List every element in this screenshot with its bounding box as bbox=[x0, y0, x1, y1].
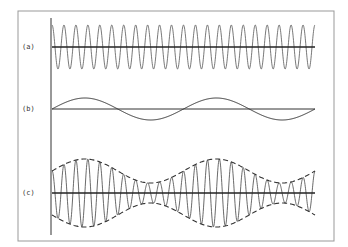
panel-a: (a) bbox=[22, 25, 315, 69]
panel-a-label: (a) bbox=[22, 43, 35, 51]
panel-c-label: (c) bbox=[22, 189, 35, 197]
panel-b: (b) bbox=[22, 98, 315, 120]
panel-b-label: (b) bbox=[22, 105, 35, 113]
panel-c: (c) bbox=[22, 159, 315, 227]
am-modulation-diagram: (a) (b) (c) bbox=[0, 0, 348, 247]
